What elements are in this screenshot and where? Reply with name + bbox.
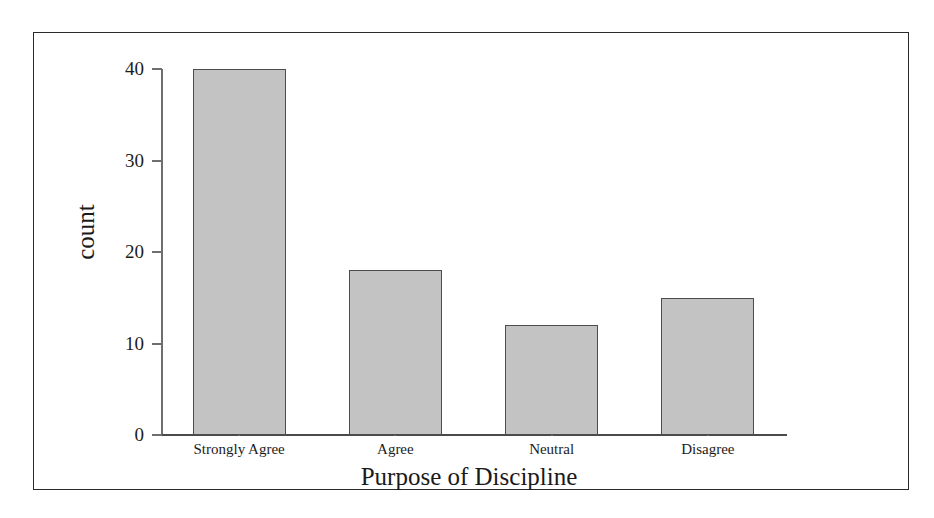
x-axis-title: Purpose of Discipline [34, 463, 910, 491]
x-axis-title-text: Purpose of Discipline [361, 463, 578, 491]
y-tick-label: 40 [92, 59, 144, 78]
bar[interactable] [505, 325, 598, 435]
y-tick-label: 30 [92, 151, 144, 170]
bar[interactable] [349, 270, 442, 435]
y-axis-title: count [72, 172, 100, 292]
y-tick-label: 10 [92, 334, 144, 353]
plot-area [161, 69, 786, 435]
bar[interactable] [661, 298, 754, 435]
x-category-label: Strongly Agree [161, 441, 317, 458]
bar[interactable] [193, 69, 286, 435]
y-tick-label-text: 10 [98, 334, 144, 353]
y-tick-label-text: 0 [98, 425, 144, 444]
figure-border: 010203040 Strongly AgreeAgreeNeutralDisa… [33, 32, 909, 490]
y-tick-label-text: 30 [98, 151, 144, 170]
y-tick-label-text: 40 [98, 59, 144, 78]
y-tick-label: 0 [92, 425, 144, 444]
x-category-label: Disagree [630, 441, 786, 458]
x-category-label: Agree [317, 441, 473, 458]
x-category-label: Neutral [474, 441, 630, 458]
y-tick-label-text: 20 [98, 242, 144, 261]
